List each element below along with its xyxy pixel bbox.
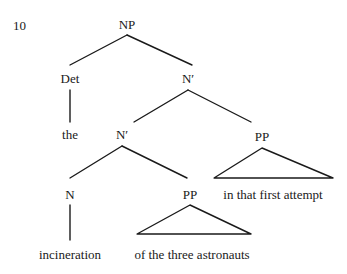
tree-node-np: NP	[119, 18, 136, 31]
tree-node-pp-1: PP	[183, 188, 197, 201]
tree-node-n-bar-2: N′	[116, 128, 128, 141]
edge-nbar1-nbar2	[134, 90, 188, 122]
tree-leaf-of-three: of the three astronauts	[134, 248, 249, 261]
edge-nbar1-pp2	[188, 90, 251, 122]
tree-node-n-bar-1: N′	[182, 72, 194, 85]
tree-leaf-the: the	[62, 128, 78, 141]
edge-nbar2-n	[70, 146, 122, 178]
triangle-pp-in-that-first-attempt	[214, 148, 333, 178]
tree-node-n: N	[65, 188, 74, 201]
tree-lines-canvas	[0, 0, 347, 274]
edge-np-nbar1	[127, 35, 192, 65]
edge-np-det	[70, 35, 127, 65]
syntax-tree-figure: 10 NPDetN′N′PPNPP thein that first attem…	[0, 0, 347, 274]
tree-node-pp-2: PP	[255, 130, 269, 143]
tree-leaf-incineration: incineration	[39, 248, 101, 261]
edge-nbar2-pp1	[122, 146, 187, 178]
triangle-pp-of-the-three-astronauts	[137, 205, 251, 234]
tree-node-det: Det	[61, 72, 80, 85]
tree-leaf-in-attempt: in that first attempt	[223, 188, 322, 201]
tree-edges	[70, 35, 251, 240]
